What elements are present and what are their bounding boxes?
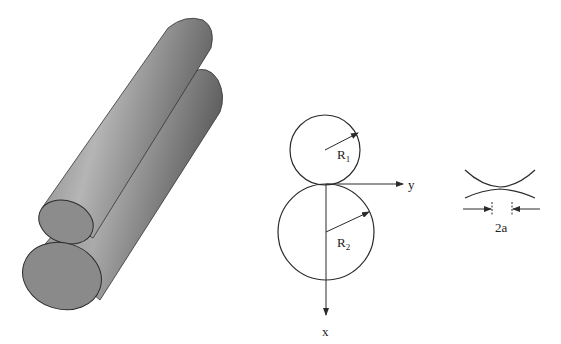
cross-section — [278, 115, 403, 315]
contact-width-label: 2a — [495, 220, 508, 235]
radius2-label: R2 — [337, 235, 350, 252]
upper-contact-curve — [465, 170, 535, 187]
contact-zone — [463, 170, 540, 216]
x-axis-label: x — [322, 324, 329, 339]
radius2-arrow — [326, 212, 369, 232]
radius1-label: R1 — [337, 147, 350, 164]
y-axis-label: y — [408, 177, 415, 192]
cylinders-3d — [14, 18, 223, 320]
diagram-canvas: R1 R2 y x 2a — [0, 0, 561, 344]
cross-section-labels: R1 R2 y x — [322, 147, 415, 339]
lower-contact-curve — [465, 189, 535, 198]
